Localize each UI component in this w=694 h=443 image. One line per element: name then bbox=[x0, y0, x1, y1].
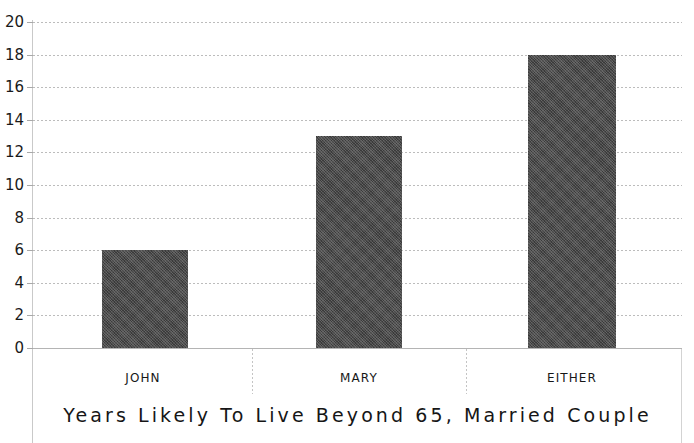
y-tick-label-16: 16 bbox=[5, 80, 24, 95]
y-tick-label-8: 8 bbox=[14, 210, 24, 225]
category-separator-2 bbox=[466, 349, 467, 394]
tick-mark-4 bbox=[27, 283, 33, 284]
tick-mark-2 bbox=[27, 315, 33, 316]
tick-mark-6 bbox=[27, 250, 33, 251]
y-tick-label-2: 2 bbox=[14, 308, 24, 323]
plot-area: 20 18 16 14 12 10 8 6 bbox=[33, 22, 682, 348]
y-tick-label-18: 18 bbox=[5, 47, 24, 62]
gridline-20: 20 bbox=[33, 22, 682, 23]
x-tick-label-john: JOHN bbox=[125, 371, 160, 385]
chart-title: Years Likely To Live Beyond 65, Married … bbox=[33, 404, 682, 426]
y-tick-label-10: 10 bbox=[5, 178, 24, 193]
category-axis: JOHN MARY EITHER bbox=[33, 349, 682, 401]
tick-mark-12 bbox=[27, 152, 33, 153]
bar-mary bbox=[316, 136, 402, 348]
y-tick-label-20: 20 bbox=[5, 15, 24, 30]
tick-mark-14 bbox=[27, 120, 33, 121]
y-tick-label-6: 6 bbox=[14, 243, 24, 258]
tick-mark-18 bbox=[27, 55, 33, 56]
category-separator-1 bbox=[252, 349, 253, 394]
tick-mark-20 bbox=[27, 22, 33, 23]
x-tick-label-mary: MARY bbox=[340, 371, 378, 385]
bar-chart: 20 18 16 14 12 10 8 6 bbox=[0, 0, 694, 443]
y-tick-label-4: 4 bbox=[14, 275, 24, 290]
x-tick-label-either: EITHER bbox=[547, 371, 597, 385]
y-tick-label-0: 0 bbox=[14, 341, 24, 356]
tick-mark-8 bbox=[27, 218, 33, 219]
bar-either bbox=[528, 55, 616, 348]
y-tick-label-14: 14 bbox=[5, 112, 24, 127]
tick-mark-16 bbox=[27, 87, 33, 88]
bar-john bbox=[102, 250, 188, 348]
y-tick-label-12: 12 bbox=[5, 145, 24, 160]
tick-mark-10 bbox=[27, 185, 33, 186]
